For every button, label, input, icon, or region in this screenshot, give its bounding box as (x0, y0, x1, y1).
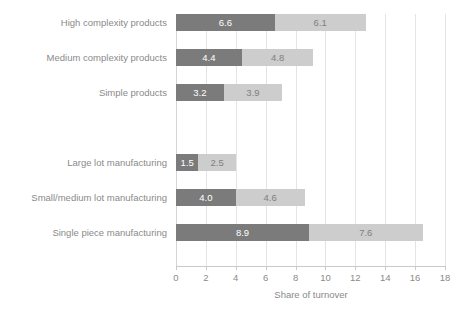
bar-value-label: 2.5 (210, 158, 223, 168)
bar-value-label: 8.9 (236, 228, 249, 238)
x-tick-label: 14 (373, 272, 397, 283)
bar-value-label: 7.6 (359, 228, 372, 238)
bar-segment-primary: 1.5 (176, 154, 198, 171)
category-axis: High complexity productsMedium complexit… (0, 0, 172, 318)
bar-segment-primary: 6.6 (176, 14, 275, 31)
bar-segment-secondary: 4.8 (242, 49, 314, 66)
x-tick-label: 6 (254, 272, 278, 283)
bar-value-label: 4.4 (202, 53, 215, 63)
bar-row: 8.97.6 (176, 224, 423, 241)
bar-value-label: 4.8 (271, 53, 284, 63)
x-tick-label: 10 (313, 272, 337, 283)
category-label: High complexity products (0, 14, 172, 31)
bar-segment-primary: 3.2 (176, 84, 224, 101)
plot-area: 6.66.14.44.83.23.91.52.54.04.68.97.6 (176, 14, 445, 266)
bar-row: 4.44.8 (176, 49, 313, 66)
bar-value-label: 3.9 (246, 88, 259, 98)
x-axis-line (176, 266, 446, 267)
bar-segment-secondary: 4.6 (236, 189, 305, 206)
x-tick-6 (266, 266, 267, 270)
bar-value-label: 1.5 (181, 158, 194, 168)
x-tick-label: 8 (284, 272, 308, 283)
x-tick-label: 0 (164, 272, 188, 283)
x-tick-18 (445, 266, 446, 270)
x-tick-0 (176, 266, 177, 270)
bar-segment-secondary: 3.9 (224, 84, 282, 101)
x-tick-label: 16 (403, 272, 427, 283)
x-tick-14 (385, 266, 386, 270)
bar-row: 1.52.5 (176, 154, 236, 171)
category-label: Large lot manufacturing (0, 154, 172, 171)
x-tick-label: 4 (224, 272, 248, 283)
bar-value-label: 6.6 (219, 18, 232, 28)
x-tick-label: 2 (194, 272, 218, 283)
bar-row: 4.04.6 (176, 189, 305, 206)
bar-segment-primary: 4.0 (176, 189, 236, 206)
bar-row: 3.23.9 (176, 84, 282, 101)
bar-segment-secondary: 6.1 (275, 14, 366, 31)
bar-row: 6.66.1 (176, 14, 366, 31)
bar-segment-secondary: 2.5 (198, 154, 235, 171)
bar-value-label: 4.0 (199, 193, 212, 203)
category-label: Medium complexity products (0, 49, 172, 66)
bar-value-label: 6.1 (314, 18, 327, 28)
gridline-18 (445, 14, 446, 266)
bar-value-label: 4.6 (264, 193, 277, 203)
x-tick-12 (355, 266, 356, 270)
category-label: Simple products (0, 84, 172, 101)
x-tick-4 (236, 266, 237, 270)
x-tick-8 (296, 266, 297, 270)
x-tick-2 (206, 266, 207, 270)
bar-chart: High complexity productsMedium complexit… (0, 0, 462, 318)
bar-segment-primary: 8.9 (176, 224, 309, 241)
x-tick-label: 18 (433, 272, 457, 283)
x-axis-title: Share of turnover (176, 289, 446, 300)
bar-value-label: 3.2 (193, 88, 206, 98)
bar-segment-primary: 4.4 (176, 49, 242, 66)
x-tick-label: 12 (343, 272, 367, 283)
category-label: Single piece manufacturing (0, 224, 172, 241)
x-tick-10 (325, 266, 326, 270)
category-label: Small/medium lot manufacturing (0, 189, 172, 206)
bar-segment-secondary: 7.6 (309, 224, 423, 241)
x-tick-16 (415, 266, 416, 270)
